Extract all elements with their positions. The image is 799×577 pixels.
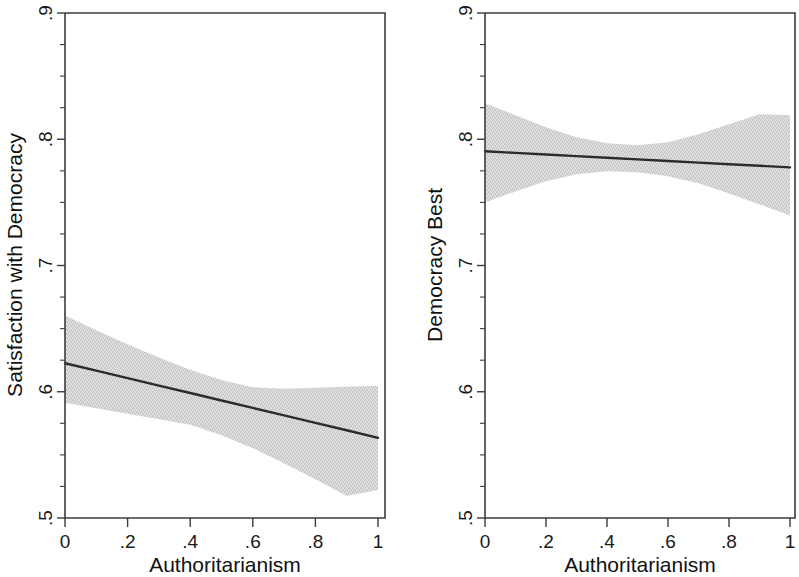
plot-frame-right xyxy=(485,13,795,518)
chart-canvas-right: .5.6.7.8.9 0.2.4.6.81 Democracy Best Aut… xyxy=(420,0,799,577)
x-tick-label: 0 xyxy=(480,531,491,552)
x-tick-label: .8 xyxy=(721,531,737,552)
x-tick-label: .4 xyxy=(599,531,615,552)
chart-panel-left: .5.6.7.8.9 0.2.4.6.81 Satisfaction with … xyxy=(0,0,420,577)
x-tick-labels-right: 0.2.4.6.81 xyxy=(480,531,796,552)
chart-panel-right: .5.6.7.8.9 0.2.4.6.81 Democracy Best Aut… xyxy=(420,0,799,577)
y-tick-label: .9 xyxy=(455,5,476,21)
plot-svg-left: .5.6.7.8.9 0.2.4.6.81 Satisfaction with … xyxy=(0,0,420,577)
chart-canvas-left: .5.6.7.8.9 0.2.4.6.81 Satisfaction with … xyxy=(0,0,420,577)
x-axis-title-left: Authoritarianism xyxy=(149,553,301,576)
y-tick-label: .5 xyxy=(35,510,56,526)
x-tick-labels-left: 0.2.4.6.81 xyxy=(60,531,384,552)
y-tick-labels-left: .5.6.7.8.9 xyxy=(35,5,56,526)
y-tick-label: .5 xyxy=(455,510,476,526)
figure-root: .5.6.7.8.9 0.2.4.6.81 Satisfaction with … xyxy=(0,0,799,577)
confidence-band-path-left xyxy=(65,316,378,496)
x-tick-label: .2 xyxy=(538,531,554,552)
x-axis-title-right: Authoritarianism xyxy=(564,553,716,576)
y-tick-labels-right: .5.6.7.8.9 xyxy=(455,5,476,526)
y-tick-label: .7 xyxy=(455,258,476,274)
x-tick-label: .8 xyxy=(307,531,323,552)
y-axis-title-right: Democracy Best xyxy=(423,188,446,342)
y-tick-label: .9 xyxy=(35,5,56,21)
x-tick-label: 0 xyxy=(60,531,71,552)
axis-ticks-right xyxy=(477,13,790,527)
x-tick-label: .6 xyxy=(245,531,261,552)
y-axis-title-left: Satisfaction with Democracy xyxy=(3,133,26,397)
y-tick-label: .6 xyxy=(35,384,56,400)
x-tick-label: 1 xyxy=(373,531,384,552)
x-tick-label: .4 xyxy=(182,531,198,552)
y-tick-label: .8 xyxy=(35,131,56,147)
confidence-band-left xyxy=(65,316,378,496)
x-tick-label: .6 xyxy=(660,531,676,552)
x-tick-label: .2 xyxy=(120,531,136,552)
y-tick-label: .8 xyxy=(455,131,476,147)
y-tick-label: .7 xyxy=(35,258,56,274)
y-tick-label: .6 xyxy=(455,384,476,400)
x-tick-label: 1 xyxy=(785,531,796,552)
plot-svg-right: .5.6.7.8.9 0.2.4.6.81 Democracy Best Aut… xyxy=(420,0,799,577)
